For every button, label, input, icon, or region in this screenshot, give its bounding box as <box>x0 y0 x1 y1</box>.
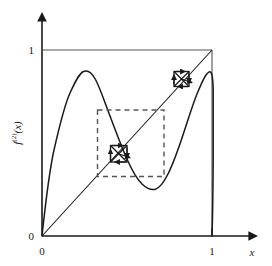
cobweb-lower-group <box>111 146 130 163</box>
y-axis-label-argument: (x) <box>11 121 23 133</box>
axes-group <box>42 20 250 236</box>
y-axis-label-wrapper: f(2)(x) <box>6 98 22 168</box>
x-tick-label-zero: 0 <box>39 245 45 257</box>
x-tick-label-one: 1 <box>209 245 215 257</box>
second-iterate-curve <box>42 71 213 236</box>
y-tick-label-one: 1 <box>29 44 35 56</box>
figure-container: 1 0 0 1 x f(2)(x) <box>0 0 272 266</box>
y-axis-label-base: f <box>11 142 23 145</box>
y-tick-label-zero: 0 <box>29 230 35 242</box>
identity-line <box>42 50 212 236</box>
plot-canvas: 1 0 0 1 x <box>0 0 272 266</box>
y-axis-label-superscript: (2) <box>10 134 18 142</box>
y-axis-label: f(2)(x) <box>6 98 22 168</box>
cobweb-upper-group <box>174 72 192 87</box>
x-axis-label: x <box>249 246 255 258</box>
